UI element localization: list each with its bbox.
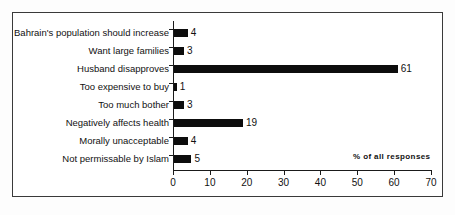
y-axis-tick <box>169 83 174 84</box>
x-tick-label: 50 <box>342 177 372 188</box>
bar-row: Morally unacceptable 4 <box>13 132 444 150</box>
bar-row: Too much bother 3 <box>13 96 444 114</box>
bar-6 <box>173 137 188 145</box>
x-axis-tick <box>284 170 285 175</box>
x-tick-label: 60 <box>379 177 409 188</box>
bar-value-3: 1 <box>180 78 186 96</box>
bar-value-0: 4 <box>191 24 197 42</box>
x-tick-label: 30 <box>269 177 299 188</box>
bar-row: Want large families 3 <box>13 42 444 60</box>
chart-container: Bahrain's population should increase 4 W… <box>0 0 455 215</box>
x-axis-tick <box>210 170 211 175</box>
y-axis-line <box>173 21 174 171</box>
y-axis-tick <box>169 119 174 120</box>
y-axis-tick <box>169 47 174 48</box>
bar-1 <box>173 47 184 55</box>
bar-value-6: 4 <box>191 132 197 150</box>
bar-4 <box>173 101 184 109</box>
category-label: Not permissable by Islam <box>62 150 169 168</box>
bar-5 <box>173 119 243 127</box>
bar-value-1: 3 <box>187 42 193 60</box>
x-axis-line <box>173 170 431 171</box>
y-axis-tick <box>169 65 174 66</box>
y-axis-tick <box>169 137 174 138</box>
y-axis-tick <box>169 101 174 102</box>
x-axis-tick <box>247 170 248 175</box>
bar-row: Too expensive to buy 1 <box>13 78 444 96</box>
x-tick-label: 0 <box>158 177 188 188</box>
category-label: Negatively affects health <box>66 114 169 132</box>
category-label: Too expensive to buy <box>80 78 169 96</box>
category-label: Husband disapproves <box>77 60 169 78</box>
bar-0 <box>173 29 188 37</box>
bar-row: Negatively affects health 19 <box>13 114 444 132</box>
bar-2 <box>173 65 398 73</box>
x-axis-tick <box>320 170 321 175</box>
bar-value-2: 61 <box>401 60 412 78</box>
x-axis-label: % of all responses <box>353 152 430 161</box>
x-axis-tick <box>173 170 174 175</box>
bar-row: Bahrain's population should increase 4 <box>13 24 444 42</box>
x-axis-tick <box>357 170 358 175</box>
x-tick-label: 10 <box>195 177 225 188</box>
bar-value-7: 5 <box>194 150 200 168</box>
y-axis-tick <box>169 29 174 30</box>
x-tick-label: 20 <box>232 177 262 188</box>
bar-row: Husband disapproves 61 <box>13 60 444 78</box>
bar-7 <box>173 155 191 163</box>
category-label: Bahrain's population should increase <box>14 24 169 42</box>
category-label: Morally unacceptable <box>79 132 169 150</box>
x-axis-tick <box>394 170 395 175</box>
bar-value-4: 3 <box>187 96 193 114</box>
x-tick-label: 70 <box>416 177 446 188</box>
category-label: Want large families <box>89 42 169 60</box>
x-tick-label: 40 <box>305 177 335 188</box>
x-axis-tick <box>431 170 432 175</box>
bar-value-5: 19 <box>246 114 257 132</box>
plot-frame: Bahrain's population should increase 4 W… <box>12 12 443 197</box>
y-axis-tick <box>169 155 174 156</box>
category-label: Too much bother <box>98 96 169 114</box>
